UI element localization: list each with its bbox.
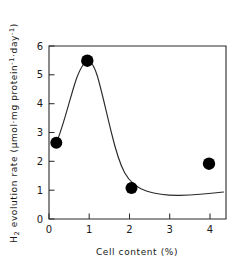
x-tick-labels: 0 1 2 3 4 [46,224,213,235]
data-point-marker [50,137,62,149]
chart-figure: 0 1 2 3 4 5 6 0 1 2 3 4 Cell content [0,0,243,267]
y-axis-title-lead: H [9,236,19,243]
y-axis-title: H2 evolution rate (μmol·mg protein-1·day… [8,23,21,243]
y-tick-label-3: 3 [37,127,43,138]
y-tick-label-5: 5 [37,69,43,80]
y-tick-labels: 0 1 2 3 4 5 6 [37,41,43,225]
x-axis-title: Cell content (%) [96,247,178,257]
data-markers [50,55,215,194]
y-tick-label-4: 4 [37,98,43,109]
data-point-marker [81,55,93,67]
y-tick-label-6: 6 [37,41,43,52]
y-axis-title-mid-2: ·day [9,35,19,57]
x-tick-label-4: 4 [207,224,213,235]
x-tick-label-2: 2 [126,224,132,235]
data-point-marker [203,158,215,170]
fitted-trend-curve [56,61,223,195]
plot-frame [49,46,226,219]
x-tick-label-0: 0 [46,224,52,235]
y-tick-label-2: 2 [37,156,43,167]
data-point-marker [126,182,138,194]
data-curve-group [56,61,223,195]
x-tick-label-3: 3 [167,224,173,235]
y-axis-title-superscript-2: -1 [8,27,16,35]
y-tick-label-1: 1 [37,185,43,196]
svg-text:H2 evolution rate (μmol·mg pro: H2 evolution rate (μmol·mg protein-1·day… [8,23,21,243]
y-axis-title-superscript-1: -1 [8,57,16,65]
y-axis-ticks [49,46,55,219]
y-tick-label-0: 0 [37,214,43,225]
y-axis-title-tail: ) [9,23,19,27]
y-axis-title-mid: evolution rate (μmol·mg protein [9,65,19,231]
x-axis-ticks [49,214,210,220]
x-tick-label-1: 1 [86,224,92,235]
chart-canvas: 0 1 2 3 4 5 6 0 1 2 3 4 Cell content [0,0,243,267]
